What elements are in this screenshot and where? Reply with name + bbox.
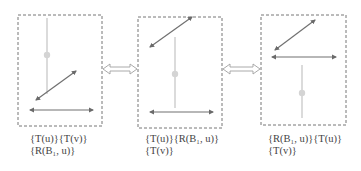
panel-3-pivot-dot [299, 90, 305, 96]
connector-1-2-hollow-double-arrow-icon [103, 64, 137, 74]
panel-1-label-line2: {R(B₁, u)} [30, 145, 87, 157]
panel-2-pivot-dot [172, 71, 178, 77]
panel-2-label-line2: {T(v)} [145, 145, 219, 157]
panel-1-label-line1: {T(u)}{T(v)} [30, 133, 87, 145]
panel-1-dashed-box [18, 15, 102, 126]
panel-1 [18, 15, 102, 126]
panel-2-label: {T(u)}{R(B₁, u)} {T(v)} [145, 133, 219, 157]
panel-3 [261, 15, 346, 125]
panel-2-diagonal-double-arrow [150, 17, 192, 47]
panel-2 [138, 17, 222, 128]
panel-2-label-line1: {T(u)}{R(B₁, u)} [145, 133, 219, 145]
connector-2-3-hollow-double-arrow-icon [223, 64, 260, 74]
panel-3-diagonal-double-arrow [275, 20, 315, 50]
panel-3-dashed-box [261, 15, 346, 125]
panel-1-diagonal-double-arrow [36, 71, 76, 100]
panel-2-dashed-box [138, 17, 222, 128]
panel-1-label: {T(u)}{T(v)} {R(B₁, u)} [30, 133, 87, 157]
panel-3-label-line2: {T(v)} [268, 145, 342, 157]
panel-1-pivot-dot [44, 52, 50, 58]
panel-3-label-line1: {R(B₁, u)}{T(u)} [268, 133, 342, 145]
panel-3-label: {R(B₁, u)}{T(u)} {T(v)} [268, 133, 342, 157]
